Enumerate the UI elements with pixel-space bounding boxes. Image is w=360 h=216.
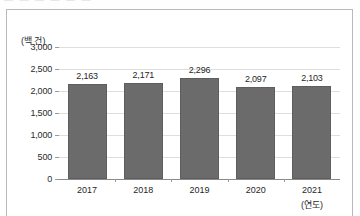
bar-value-label-2019: 2,296	[189, 65, 211, 75]
y-axis-tick-label: 1,500	[30, 108, 52, 118]
bar-value-label-2021: 2,103	[301, 73, 323, 83]
x-axis-tick-mark	[171, 179, 172, 182]
y-axis-tick-label: 2,500	[30, 64, 52, 74]
bar-2020[interactable]	[236, 87, 275, 179]
y-axis-tick-label: 3,000	[30, 42, 52, 52]
scan-artifact-top-cut-text: — — — — — —	[0, 0, 360, 7]
bar-2017[interactable]	[68, 84, 107, 179]
x-axis-tick-label-2018: 2018	[133, 185, 153, 195]
x-axis-tick-label-2017: 2017	[77, 185, 97, 195]
y-axis-tick-label: 1,000	[30, 130, 52, 140]
bar-2019[interactable]	[180, 78, 219, 179]
y-axis-tick-label: 500	[38, 152, 52, 162]
bar-2018[interactable]	[124, 83, 163, 179]
y-axis-tick-mark	[55, 91, 59, 92]
bar-value-label-2020: 2,097	[245, 74, 267, 84]
x-axis-unit-label: (연도)	[301, 198, 323, 211]
x-axis-tick-label-2019: 2019	[189, 185, 209, 195]
chart-frame: (백 건) (연도) 3,0002,5002,0001,5001,0005000…	[6, 9, 353, 216]
x-axis-tick-mark	[228, 179, 229, 182]
x-axis-tick-label-2020: 2020	[246, 185, 266, 195]
y-axis-tick-label: 2,000	[30, 86, 52, 96]
gridline	[59, 47, 340, 48]
y-axis-tick-mark	[55, 157, 59, 158]
x-axis-tick-label-2021: 2021	[302, 185, 322, 195]
y-axis-tick-mark	[55, 47, 59, 48]
bar-2021[interactable]	[292, 86, 331, 179]
scan-artifact-text: — — — — — —	[4, 0, 93, 5]
bar-value-label-2017: 2,163	[76, 71, 98, 81]
plot-area: (연도) 3,0002,5002,0001,5001,00050002,1632…	[59, 47, 340, 179]
y-axis-tick-label: 0	[47, 174, 52, 184]
x-axis-baseline	[59, 179, 340, 180]
y-axis-tick-mark	[55, 69, 59, 70]
bar-value-label-2018: 2,171	[133, 70, 155, 80]
y-axis-tick-mark	[55, 113, 59, 114]
y-axis-tick-mark	[55, 179, 59, 180]
x-axis-tick-mark	[284, 179, 285, 182]
x-axis-tick-mark	[115, 179, 116, 182]
y-axis-tick-mark	[55, 135, 59, 136]
